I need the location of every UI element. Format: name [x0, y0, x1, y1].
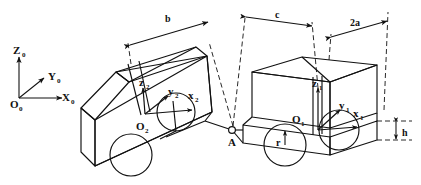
dimension-b-label: b — [165, 13, 171, 24]
y-axis-global-label: Y — [48, 70, 56, 82]
y1-axis-label: y — [339, 99, 345, 111]
articulated-vehicle-diagram: Z 0 Y 0 X 0 O 0 — [0, 0, 421, 185]
origin-trailer-label: O — [136, 120, 145, 132]
origin-global-label: O — [10, 98, 19, 110]
dimension-r-label: r — [276, 137, 281, 148]
x2-axis-subscript: 2 — [195, 96, 199, 104]
dimension-h-label: h — [402, 127, 408, 138]
y2-axis-label: y — [168, 85, 174, 97]
origin-global-subscript: 0 — [19, 105, 23, 113]
x1-axis-subscript: 1 — [360, 114, 364, 122]
dimension-2a-label: 2a — [350, 17, 360, 28]
z2-axis-subscript: 2 — [146, 83, 150, 91]
z2-axis-label: z — [139, 76, 144, 88]
z1-axis-label: z — [312, 77, 317, 89]
origin-tractor-label: O — [292, 113, 301, 125]
y1-axis-subscript: 1 — [346, 106, 350, 114]
origin-trailer-subscript: 2 — [145, 127, 149, 135]
y-axis-global-subscript: 0 — [57, 77, 61, 85]
y2-axis-subscript: 2 — [175, 92, 179, 100]
x-axis-global-subscript: 0 — [71, 98, 75, 106]
z1-axis-subscript: 1 — [319, 84, 323, 92]
x2-axis-label: x — [188, 89, 194, 101]
origin-tractor-subscript: 1 — [301, 120, 305, 128]
z-axis-global-subscript: 0 — [22, 51, 26, 59]
x-axis-global-label: X — [62, 91, 70, 103]
hitch-label: A — [228, 136, 236, 148]
dimension-c-label: c — [275, 9, 280, 20]
hitch-joint-marker — [229, 127, 236, 134]
x1-axis-label: x — [353, 107, 359, 119]
z-axis-global-label: Z — [13, 44, 20, 56]
